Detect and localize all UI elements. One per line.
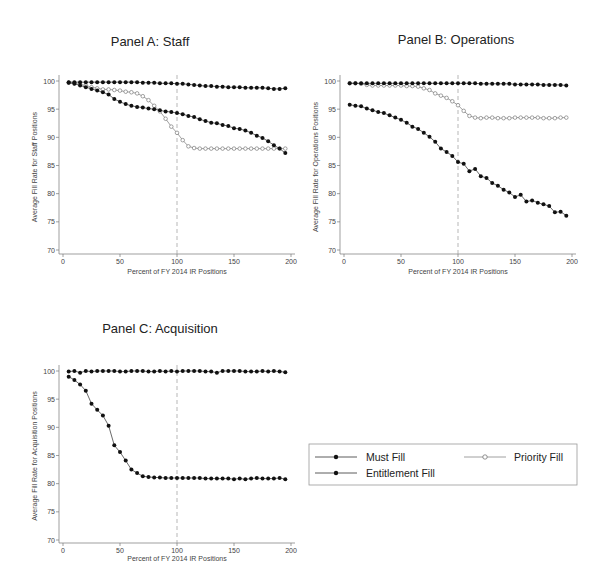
filled-circle-marker-icon	[428, 81, 432, 85]
x-tick-label: 50	[397, 258, 405, 265]
y-tick-label: 100	[43, 78, 55, 85]
filled-circle-marker-icon	[90, 402, 94, 406]
filled-circle-marker-icon	[334, 471, 338, 475]
hollow-circle-marker-icon	[244, 147, 248, 151]
filled-circle-marker-icon	[112, 443, 116, 447]
hollow-circle-marker-icon	[232, 147, 236, 151]
hollow-circle-marker-icon	[456, 103, 460, 107]
filled-circle-marker-icon	[490, 82, 494, 86]
filled-circle-marker-icon	[266, 370, 270, 374]
panel-c-plot-area: 707580859095100050100150200	[43, 365, 297, 554]
hollow-circle-marker-icon	[198, 147, 202, 151]
filled-circle-marker-icon	[107, 369, 111, 373]
filled-circle-marker-icon	[433, 81, 437, 85]
panel-a-y-axis-label: Average Fill Rate for Staff Positions	[31, 111, 39, 222]
filled-circle-marker-icon	[169, 81, 173, 85]
filled-circle-marker-icon	[283, 477, 287, 481]
filled-circle-marker-icon	[204, 477, 208, 481]
hollow-circle-marker-icon	[547, 116, 551, 120]
filled-circle-marker-icon	[90, 370, 94, 374]
filled-circle-marker-icon	[221, 477, 225, 481]
filled-circle-marker-icon	[209, 370, 213, 374]
filled-circle-marker-icon	[547, 204, 551, 208]
hollow-circle-marker-icon	[565, 116, 569, 120]
filled-circle-marker-icon	[399, 81, 403, 85]
panel-a-title: Panel A: Staff	[111, 34, 190, 49]
filled-circle-marker-icon	[238, 369, 242, 373]
filled-circle-marker-icon	[112, 369, 116, 373]
hollow-circle-marker-icon	[479, 116, 483, 120]
filled-circle-marker-icon	[266, 139, 270, 143]
hollow-circle-marker-icon	[141, 94, 145, 98]
filled-circle-marker-icon	[519, 193, 523, 197]
filled-circle-marker-icon	[462, 162, 466, 166]
series-must-fill	[348, 81, 569, 87]
filled-circle-marker-icon	[141, 105, 145, 109]
filled-circle-marker-icon	[243, 477, 247, 481]
filled-circle-marker-icon	[278, 370, 282, 374]
filled-circle-marker-icon	[238, 127, 242, 131]
hollow-circle-marker-icon	[152, 104, 156, 108]
filled-circle-marker-icon	[399, 118, 403, 122]
hollow-circle-marker-icon	[433, 92, 437, 96]
filled-circle-marker-icon	[95, 89, 99, 93]
x-tick-label: 200	[285, 547, 297, 554]
filled-circle-marker-icon	[249, 86, 253, 90]
filled-circle-marker-icon	[164, 370, 168, 374]
panel-b-title: Panel B: Operations	[398, 32, 515, 47]
hollow-circle-marker-icon	[209, 147, 213, 151]
filled-circle-marker-icon	[283, 86, 287, 90]
filled-circle-marker-icon	[84, 389, 88, 393]
filled-circle-marker-icon	[135, 471, 139, 475]
filled-circle-marker-icon	[147, 81, 151, 85]
hollow-circle-marker-icon	[272, 147, 276, 151]
panel-b-plot-area: 707580859095100050100150200	[324, 75, 578, 265]
filled-circle-marker-icon	[439, 147, 443, 151]
y-tick-label: 85	[328, 162, 336, 169]
filled-circle-marker-icon	[422, 81, 426, 85]
filled-circle-marker-icon	[439, 81, 443, 85]
hollow-circle-marker-icon	[530, 116, 534, 120]
filled-circle-marker-icon	[261, 477, 265, 481]
filled-circle-marker-icon	[261, 136, 265, 140]
filled-circle-marker-icon	[226, 85, 230, 89]
y-tick-label: 75	[47, 218, 55, 225]
hollow-circle-marker-icon	[462, 109, 466, 113]
filled-circle-marker-icon	[175, 370, 179, 374]
panel-a-plot-area: 707580859095100050100150200	[43, 75, 297, 265]
filled-circle-marker-icon	[141, 81, 145, 85]
filled-circle-marker-icon	[365, 81, 369, 85]
filled-circle-marker-icon	[382, 111, 386, 115]
filled-circle-marker-icon	[536, 201, 540, 205]
filled-circle-marker-icon	[405, 81, 409, 85]
filled-circle-marker-icon	[112, 97, 116, 101]
filled-circle-marker-icon	[198, 369, 202, 373]
panel-c-title: Panel C: Acquisition	[102, 321, 218, 336]
hollow-circle-marker-icon	[113, 88, 117, 92]
series-priority-fill	[348, 81, 568, 120]
panel-c-y-axis-label: Average Fill Rate for Acquisition Positi…	[31, 391, 39, 521]
filled-circle-marker-icon	[129, 80, 133, 84]
hollow-circle-marker-icon	[542, 116, 546, 120]
filled-circle-marker-icon	[107, 93, 111, 97]
filled-circle-marker-icon	[445, 150, 449, 154]
filled-circle-marker-icon	[186, 369, 190, 373]
hollow-circle-marker-icon	[187, 145, 191, 149]
hollow-circle-marker-icon	[249, 147, 253, 151]
filled-circle-marker-icon	[496, 184, 500, 188]
filled-circle-marker-icon	[249, 370, 253, 374]
filled-circle-marker-icon	[101, 414, 105, 418]
filled-circle-marker-icon	[348, 103, 352, 107]
filled-circle-marker-icon	[158, 108, 162, 112]
filled-circle-marker-icon	[147, 370, 151, 374]
filled-circle-marker-icon	[388, 81, 392, 85]
filled-circle-marker-icon	[118, 80, 122, 84]
filled-circle-marker-icon	[553, 83, 557, 87]
filled-circle-marker-icon	[181, 476, 185, 480]
filled-circle-marker-icon	[530, 198, 534, 202]
filled-circle-marker-icon	[278, 87, 282, 91]
filled-circle-marker-icon	[473, 81, 477, 85]
filled-circle-marker-icon	[101, 90, 105, 94]
filled-circle-marker-icon	[502, 82, 506, 86]
filled-circle-marker-icon	[192, 83, 196, 87]
